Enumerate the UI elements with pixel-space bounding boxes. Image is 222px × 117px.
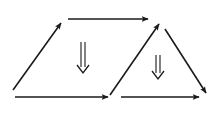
- left-diagonal-arrow: [13, 23, 61, 90]
- right-diagonal-arrow: [165, 29, 206, 93]
- commutative-diagram: [0, 0, 222, 117]
- middle-diagonal-arrow: [110, 24, 159, 95]
- arrows: [13, 19, 206, 97]
- left-2cell-double-arrow-icon: [77, 42, 89, 73]
- right-2cell-double-arrow-icon: [152, 55, 164, 79]
- double-arrows: [77, 42, 164, 79]
